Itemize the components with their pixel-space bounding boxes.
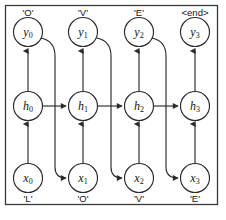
bottom-label-1: 'O'	[77, 193, 88, 204]
rnn-diagram-figure: y0 y1 y2 y3 h0 h1 h2 h3 x0 x1 x2 x3 'O' …	[0, 0, 226, 220]
edge-y2-to-x3-feedback	[152, 38, 178, 178]
top-label-3: <end>	[182, 7, 209, 18]
top-label-2: 'E'	[134, 7, 144, 18]
bottom-label-3: 'E'	[190, 193, 200, 204]
edge-y1-to-x2-feedback	[97, 38, 122, 178]
bottom-label-0: 'L'	[24, 193, 33, 204]
bottom-label-2: 'V'	[134, 193, 144, 204]
top-label-0: 'O'	[22, 7, 33, 18]
edge-y0-to-x1-feedback	[41, 38, 66, 178]
rnn-diagram-svg: y0 y1 y2 y3 h0 h1 h2 h3 x0 x1 x2 x3 'O' …	[0, 0, 226, 220]
top-label-1: 'V'	[78, 7, 88, 18]
